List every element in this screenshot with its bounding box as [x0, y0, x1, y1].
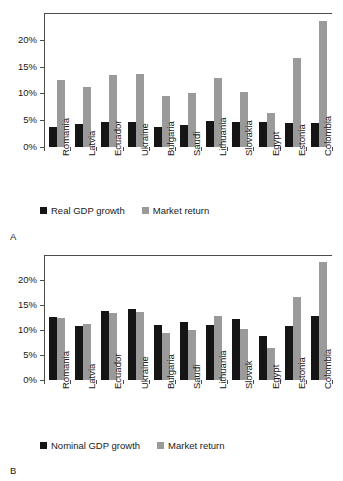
y-axis-tick-label: 15%	[18, 62, 37, 72]
y-axis-tick-label: 10%	[18, 325, 37, 335]
legend-item: Real GDP growth	[40, 205, 125, 216]
plot-area-a: 0%5%10%15%20%	[44, 13, 332, 147]
chart-panel-a: 0%5%10%15%20% RomaniaLatviaEcuadorUkrain…	[0, 0, 343, 240]
bar-group-container-b	[44, 255, 332, 380]
bar	[311, 316, 319, 380]
y-axis-tick-label: 5%	[23, 350, 37, 360]
legend-swatch-icon	[40, 207, 47, 214]
y-axis-tick-label: 20%	[18, 275, 37, 285]
y-axis-tick-label: 0%	[23, 142, 37, 152]
bar	[128, 309, 136, 381]
bar-group	[70, 13, 96, 147]
x-axis-category-label: Lithuania	[218, 350, 228, 389]
x-axis-category-label: Ecuador	[113, 354, 123, 389]
y-axis-tick	[40, 67, 44, 68]
y-axis-tick	[40, 40, 44, 41]
x-axis-category-label: Romania	[61, 118, 71, 156]
x-axis-category-label: Lithuania	[218, 117, 228, 156]
bar	[232, 319, 240, 381]
legend-swatch-icon	[142, 207, 149, 214]
x-axis-category-label: Egypt	[271, 132, 281, 156]
legend-item: Market return	[142, 205, 210, 216]
bar	[49, 127, 57, 147]
x-axis-category-label: Egypt	[271, 365, 281, 389]
bar	[206, 121, 214, 147]
x-axis-category-label: Ukraine	[140, 356, 150, 389]
legend-swatch-icon	[157, 442, 164, 449]
y-axis-tick	[40, 330, 44, 331]
legend-item: Nominal GDP growth	[40, 440, 140, 451]
bar	[128, 122, 136, 147]
y-axis-tick	[40, 120, 44, 121]
bar	[49, 317, 57, 381]
x-axis-category-label: Estonia	[297, 357, 307, 389]
bar	[206, 325, 214, 380]
x-axis-tick	[44, 147, 45, 151]
legend-swatch-icon	[40, 442, 47, 449]
x-axis-category-label: Saudi	[192, 365, 202, 389]
legend-label: Market return	[168, 440, 225, 451]
bar	[259, 336, 267, 381]
y-axis-tick	[40, 93, 44, 94]
x-axis-category-label: Bulgaria	[166, 354, 176, 389]
plot-area-b: 0%5%10%15%20%	[44, 255, 332, 380]
x-axis-category-label: Colombia	[323, 116, 333, 156]
bar	[285, 326, 293, 380]
y-axis-tick	[40, 305, 44, 306]
x-axis-category-label: Saudi	[192, 132, 202, 156]
y-axis-tick-label: 0%	[23, 375, 37, 385]
bar	[101, 122, 109, 147]
x-axis-category-label: Bulgaria	[166, 121, 176, 156]
x-axis-category-label: Estonia	[297, 124, 307, 156]
bar	[232, 122, 240, 147]
bar-group	[253, 13, 279, 147]
x-axis-category-label: Slovakia	[244, 120, 254, 156]
figure-root: 0%5%10%15%20% RomaniaLatviaEcuadorUkrain…	[0, 0, 343, 481]
bar	[285, 123, 293, 147]
y-axis-tick-label: 20%	[18, 35, 37, 45]
chart-panel-b: 0%5%10%15%20% RomaniaLatviaEcuadorUkrain…	[0, 240, 343, 481]
x-axis-category-label: Romania	[61, 351, 71, 389]
legend-label: Market return	[153, 205, 210, 216]
y-axis-tick-label: 10%	[18, 89, 37, 99]
bar-group	[175, 255, 201, 380]
y-axis-tick-label: 5%	[23, 115, 37, 125]
bar-group-container-a	[44, 13, 332, 147]
bar	[180, 125, 188, 148]
bar-group	[175, 13, 201, 147]
bar	[180, 322, 188, 380]
y-axis-tick-label: 15%	[18, 300, 37, 310]
bar-group	[253, 255, 279, 380]
legend-item: Market return	[157, 440, 225, 451]
panel-letter-b: B	[10, 465, 16, 476]
x-axis-category-label: Latvia	[87, 131, 97, 156]
bar	[154, 127, 162, 147]
legend-a: Real GDP growthMarket return	[40, 205, 209, 216]
bar	[101, 311, 109, 381]
bar	[154, 325, 162, 380]
bar	[259, 122, 267, 147]
legend-label: Real GDP growth	[51, 205, 125, 216]
x-axis-category-label: Colombia	[323, 349, 333, 389]
legend-label: Nominal GDP growth	[51, 440, 140, 451]
x-axis-category-label: Ukraine	[140, 123, 150, 156]
x-axis-category-label: Slovak	[244, 360, 254, 389]
legend-b: Nominal GDP growthMarket return	[40, 440, 225, 451]
bar	[75, 326, 83, 381]
bar-group	[70, 255, 96, 380]
x-axis-category-label: Latvia	[87, 364, 97, 389]
x-axis-category-label: Ecuador	[113, 121, 123, 156]
y-axis-tick	[40, 355, 44, 356]
x-axis-tick	[44, 380, 45, 384]
bar	[75, 124, 83, 147]
bar	[311, 123, 319, 147]
y-axis-tick	[40, 280, 44, 281]
